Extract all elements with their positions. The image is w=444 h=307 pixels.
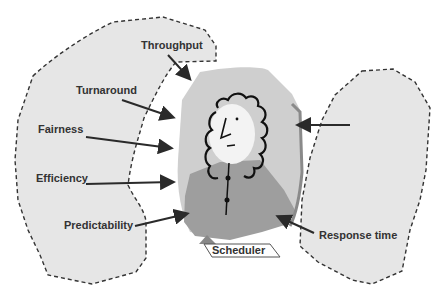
diagram-graphics (0, 0, 444, 307)
label-predictability: Predictability (64, 219, 133, 231)
label-turnaround: Turnaround (76, 84, 137, 96)
label-efficiency: Efficiency (36, 172, 88, 184)
scheduler-criteria-diagram: Throughput Turnaround Fairness Efficienc… (0, 0, 444, 307)
label-fairness: Fairness (38, 123, 83, 135)
label-response-time: Response time (319, 229, 397, 241)
right-blob (300, 69, 430, 284)
label-throughput: Throughput (141, 39, 203, 51)
scheduler-label: Scheduler (212, 244, 265, 256)
